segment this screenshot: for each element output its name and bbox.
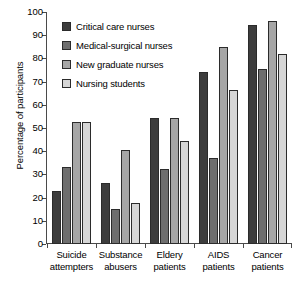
y-axis-tick-label: 100 xyxy=(19,6,43,17)
legend-item-label: New graduate nurses xyxy=(76,59,163,70)
x-axis-tick-mark xyxy=(47,244,48,248)
x-axis-category-label-line: abusers xyxy=(96,261,145,273)
y-axis-title: Percentage of participants xyxy=(14,21,25,211)
y-axis-tick-label: 90 xyxy=(19,29,43,40)
x-axis-tick-mark xyxy=(194,244,195,248)
y-axis-tick-label: 0 xyxy=(19,238,43,249)
x-axis-category-label-line: attempters xyxy=(47,261,96,273)
bar xyxy=(209,158,218,244)
x-axis-tick-mark xyxy=(145,244,146,248)
bar xyxy=(229,90,238,244)
bar xyxy=(199,72,208,244)
legend-item: Critical care nurses xyxy=(62,17,212,36)
bar xyxy=(121,150,130,244)
y-axis-tick-label: 60 xyxy=(19,99,43,110)
x-axis-category-label-line: Suicide xyxy=(47,249,96,261)
bar xyxy=(111,209,120,244)
y-axis-tick-label: 70 xyxy=(19,76,43,87)
bar xyxy=(101,183,110,244)
bar-chart: Percentage of participants 0102030405060… xyxy=(0,0,298,286)
bar-group xyxy=(243,12,292,244)
x-axis-category-label-line: Cancer xyxy=(243,249,292,261)
x-axis-category-label-line: AIDS xyxy=(194,249,243,261)
bar xyxy=(248,25,257,244)
x-axis-tick-mark xyxy=(291,244,292,248)
x-axis-labels: SuicideattemptersSubstanceabusersElderyp… xyxy=(47,249,292,273)
y-axis-tick-label: 20 xyxy=(19,192,43,203)
legend-swatch-icon xyxy=(62,22,71,31)
legend-swatch-icon xyxy=(62,79,71,88)
bar xyxy=(219,47,228,244)
legend-item-label: Critical care nurses xyxy=(76,21,154,32)
x-axis-category-label: AIDSpatients xyxy=(194,249,243,273)
y-axis-tick-label: 40 xyxy=(19,145,43,156)
x-axis-category-label-line: patients xyxy=(145,261,194,273)
legend-swatch-icon xyxy=(62,41,71,50)
x-axis-category-label-line: Eldery xyxy=(145,249,194,261)
bar xyxy=(180,141,189,244)
chart-legend: Critical care nursesMedical-surgical nur… xyxy=(62,17,212,93)
x-axis-tick-mark xyxy=(243,244,244,248)
x-axis-category-label-line: Substance xyxy=(96,249,145,261)
bar xyxy=(82,122,91,244)
x-axis-category-label: Suicideattempters xyxy=(47,249,96,273)
bar xyxy=(150,118,159,244)
bar xyxy=(278,54,287,244)
x-axis-tick-mark xyxy=(96,244,97,248)
bar xyxy=(52,191,61,244)
legend-item-label: Nursing students xyxy=(76,78,145,89)
bar xyxy=(72,122,81,244)
y-axis-tick-label: 30 xyxy=(19,168,43,179)
legend-item: New graduate nurses xyxy=(62,55,212,74)
x-axis-category-label: Elderypatients xyxy=(145,249,194,273)
x-axis-category-label: Cancerpatients xyxy=(243,249,292,273)
legend-item-label: Medical-surgical nurses xyxy=(76,40,172,51)
bar xyxy=(268,21,277,244)
y-axis-tick-label: 80 xyxy=(19,52,43,63)
legend-swatch-icon xyxy=(62,60,71,69)
x-axis-category-label: Substanceabusers xyxy=(96,249,145,273)
bar xyxy=(170,118,179,244)
legend-item: Medical-surgical nurses xyxy=(62,36,212,55)
bar xyxy=(160,169,169,244)
x-axis-category-label-line: patients xyxy=(243,261,292,273)
bar xyxy=(62,167,71,244)
bar xyxy=(131,203,140,244)
y-axis-tick-label: 50 xyxy=(19,122,43,133)
bar xyxy=(258,69,267,244)
x-axis-category-label-line: patients xyxy=(194,261,243,273)
y-axis-tick-label: 10 xyxy=(19,215,43,226)
legend-item: Nursing students xyxy=(62,74,212,93)
